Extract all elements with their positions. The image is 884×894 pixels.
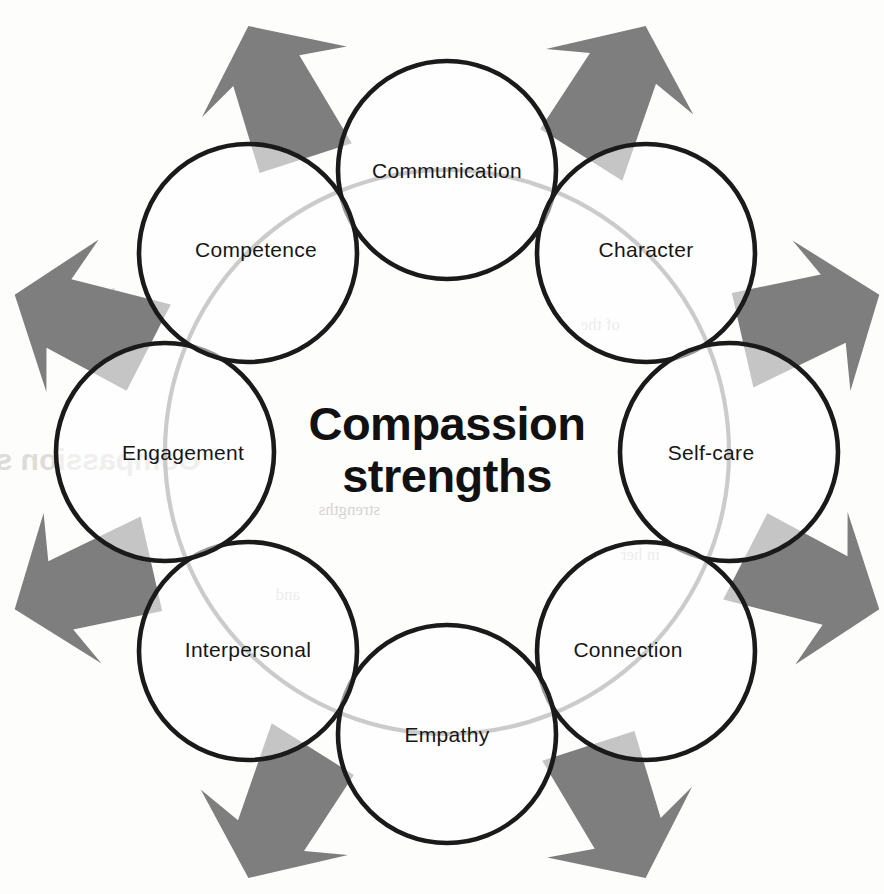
node-label: Self-care: [668, 441, 755, 464]
center-title: Compassionstrengths: [308, 397, 585, 502]
center-title-line: strengths: [342, 449, 552, 502]
compassion-strengths-diagram: "Compassion strengths"the ofwillandof th…: [0, 0, 884, 894]
node-label: Connection: [573, 638, 682, 661]
strength-node-self-care[interactable]: Self-care: [620, 343, 838, 561]
strength-node-communication[interactable]: Communication: [338, 61, 556, 279]
node-label: Competence: [195, 238, 317, 261]
node-label: Empathy: [405, 723, 490, 746]
node-label: Character: [599, 238, 694, 261]
diagram-canvas: "Compassion strengths"the ofwillandof th…: [0, 0, 884, 894]
strength-node-competence[interactable]: Competence: [139, 144, 357, 362]
strength-node-engagement[interactable]: Engagement: [56, 343, 274, 561]
node-label: Interpersonal: [185, 638, 311, 661]
ghost-mark: strengths: [319, 500, 380, 519]
strength-node-interpersonal[interactable]: Interpersonal: [139, 542, 357, 760]
strength-node-character[interactable]: Character: [537, 144, 755, 362]
center-title-line: Compassion: [308, 397, 585, 450]
strength-node-connection[interactable]: Connection: [537, 542, 755, 760]
node-label: Communication: [372, 159, 522, 182]
node-label: Engagement: [122, 441, 244, 464]
strength-node-empathy[interactable]: Empathy: [338, 625, 556, 843]
